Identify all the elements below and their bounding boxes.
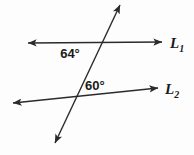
geometry-figure: 64° 60° L1 L2 [0, 0, 194, 155]
line-l1 [28, 42, 162, 43]
angle-label-64: 64° [60, 46, 80, 61]
line-label-l2-base: L [164, 81, 174, 97]
figure-canvas: 64° 60° L1 L2 [0, 0, 194, 155]
line-label-l1-base: L [169, 35, 179, 51]
angle-label-60: 60° [85, 78, 105, 93]
line-label-l1-subscript: 1 [179, 43, 184, 54]
line-label-l2-subscript: 2 [173, 89, 179, 100]
